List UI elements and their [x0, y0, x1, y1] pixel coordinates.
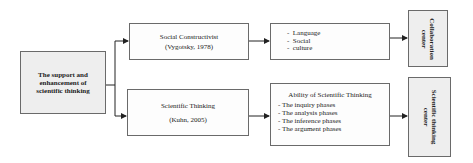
- node-citation: (Kuhn, 2005): [169, 115, 207, 125]
- root-line-2: enhancement of: [39, 79, 86, 87]
- ability-title: Ability of Scientific Thinking: [271, 92, 389, 100]
- list-item: - The analysis phases: [278, 109, 341, 117]
- phases-list: - The inquiry phases - The analysis phas…: [278, 101, 341, 133]
- root-line-1: The support and: [38, 71, 88, 79]
- outcome-label: Scientific thinking center: [422, 90, 438, 145]
- scientific-thinking-node: Scientific Thinking (Kuhn, 2005): [127, 89, 249, 136]
- scientific-thinking-center-node: Scientific thinking center: [408, 77, 451, 157]
- scientific-ability-node: Ability of Scientific Thinking - The inq…: [270, 83, 390, 146]
- root-node: The support and enhancement of scientifi…: [20, 51, 106, 114]
- social-constructivist-node: Social Constructivist (Vygotsky, 1978): [129, 23, 249, 60]
- list-item: - The inquiry phases: [278, 101, 341, 109]
- list-item: - The inference phases: [278, 117, 341, 125]
- outcome-label: Collaboration center: [420, 18, 436, 60]
- factors-list: - Language - Social - culture: [287, 30, 320, 53]
- list-item: - The argument phases: [278, 125, 341, 133]
- social-factors-node: - Language - Social - culture: [270, 23, 390, 60]
- node-title: Scientific Thinking: [161, 101, 215, 111]
- list-item: - culture: [287, 45, 320, 53]
- node-title: Social Constructivist: [160, 32, 219, 42]
- node-citation: (Vygotsky, 1978): [165, 42, 213, 52]
- root-line-3: scientific thinking: [36, 87, 89, 95]
- collaboration-center-node: Collaboration center: [408, 10, 448, 67]
